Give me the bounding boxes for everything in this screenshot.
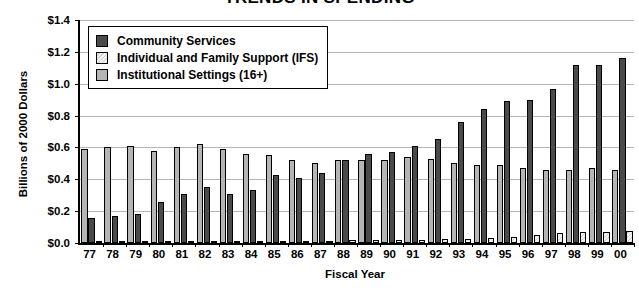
x-axis-title: Fiscal Year: [78, 268, 632, 280]
bar-individual-family-support: [303, 241, 309, 243]
bar-institutional-settings: [497, 165, 503, 243]
x-tick-label: 00: [605, 248, 635, 260]
bar-community-services: [527, 100, 533, 243]
bar-group: [565, 20, 588, 243]
x-tick-mark: [265, 243, 266, 247]
bar-community-services: [435, 139, 441, 243]
bar-institutional-settings: [243, 154, 249, 243]
y-tick-mark: [75, 147, 80, 148]
chart-title: TRENDS IN SPENDING: [0, 0, 639, 8]
bar-institutional-settings: [174, 147, 180, 243]
bar-individual-family-support: [603, 232, 609, 243]
bar-group: [334, 20, 357, 243]
bar-community-services: [250, 190, 256, 243]
bar-community-services: [273, 175, 279, 243]
bar-community-services: [458, 122, 464, 243]
bar-institutional-settings: [289, 160, 295, 243]
x-tick-mark: [242, 243, 243, 247]
x-tick-mark: [426, 243, 427, 247]
bar-individual-family-support: [419, 240, 425, 243]
bar-individual-family-support: [580, 232, 586, 243]
y-tick-label: $1.2: [28, 46, 70, 58]
bar-community-services: [596, 65, 602, 243]
bar-individual-family-support: [165, 241, 171, 243]
bar-institutional-settings: [543, 170, 549, 243]
bar-community-services: [181, 194, 187, 243]
x-tick-mark: [103, 243, 104, 247]
bar-individual-family-support: [280, 241, 286, 243]
x-tick-mark: [611, 243, 612, 247]
bar-individual-family-support: [188, 241, 194, 243]
bar-institutional-settings: [404, 157, 410, 243]
y-tick-label: $0.4: [28, 173, 70, 185]
y-tick-mark: [75, 116, 80, 117]
x-tick-mark: [195, 243, 196, 247]
bar-institutional-settings: [104, 147, 110, 243]
bar-institutional-settings: [428, 159, 434, 243]
bar-community-services: [481, 109, 487, 243]
y-tick-mark: [75, 52, 80, 53]
x-tick-mark: [634, 243, 635, 247]
x-tick-mark: [219, 243, 220, 247]
bar-institutional-settings: [451, 163, 457, 243]
bar-individual-family-support: [488, 238, 494, 243]
bar-institutional-settings: [612, 170, 618, 243]
x-tick-mark: [357, 243, 358, 247]
spending-trends-chart: TRENDS IN SPENDING Billions of 2000 Doll…: [0, 0, 639, 290]
x-tick-mark: [403, 243, 404, 247]
bar-individual-family-support: [211, 241, 217, 243]
bar-community-services: [204, 187, 210, 243]
legend-item[interactable]: Community Services: [96, 32, 318, 49]
x-tick-mark: [172, 243, 173, 247]
bar-institutional-settings: [335, 160, 341, 243]
bar-group: [403, 20, 426, 243]
bar-group: [588, 20, 611, 243]
y-tick-label: $0.6: [28, 141, 70, 153]
x-tick-mark: [149, 243, 150, 247]
y-tick-label: $0.2: [28, 205, 70, 217]
bar-community-services: [227, 194, 233, 243]
x-tick-mark: [126, 243, 127, 247]
x-tick-mark: [380, 243, 381, 247]
bar-institutional-settings: [381, 160, 387, 243]
bar-group: [380, 20, 403, 243]
legend-item[interactable]: Institutional Settings (16+): [96, 66, 318, 83]
x-tick-mark: [519, 243, 520, 247]
bar-group: [472, 20, 495, 243]
bar-individual-family-support: [349, 240, 355, 243]
legend-swatch-icon: [96, 35, 108, 47]
bar-institutional-settings: [127, 146, 133, 243]
bar-institutional-settings: [566, 170, 572, 243]
bar-individual-family-support: [119, 241, 125, 243]
bar-institutional-settings: [266, 155, 272, 243]
bar-institutional-settings: [520, 168, 526, 243]
bar-group: [357, 20, 380, 243]
bar-group: [496, 20, 519, 243]
bar-community-services: [319, 173, 325, 243]
x-tick-mark: [334, 243, 335, 247]
y-axis-title: Billions of 2000 Dollars: [17, 34, 29, 234]
legend-swatch-icon: [96, 69, 108, 81]
bar-group: [542, 20, 565, 243]
bar-individual-family-support: [534, 235, 540, 243]
bar-institutional-settings: [312, 163, 318, 243]
x-tick-mark: [565, 243, 566, 247]
y-tick-label: $1.0: [28, 78, 70, 90]
y-tick-mark: [75, 243, 80, 244]
x-tick-mark: [496, 243, 497, 247]
bar-community-services: [550, 89, 556, 244]
bar-individual-family-support: [326, 241, 332, 243]
bar-group: [611, 20, 634, 243]
y-tick-mark: [75, 20, 80, 21]
bar-community-services: [412, 146, 418, 243]
legend-item[interactable]: Individual and Family Support (IFS): [96, 49, 318, 66]
y-tick-label: $0.0: [28, 237, 70, 249]
y-tick-label: $1.4: [28, 14, 70, 26]
bar-institutional-settings: [151, 151, 157, 243]
bar-group: [426, 20, 449, 243]
bar-individual-family-support: [511, 237, 517, 243]
x-tick-mark: [472, 243, 473, 247]
bar-individual-family-support: [373, 240, 379, 243]
x-tick-mark: [542, 243, 543, 247]
x-tick-mark: [311, 243, 312, 247]
